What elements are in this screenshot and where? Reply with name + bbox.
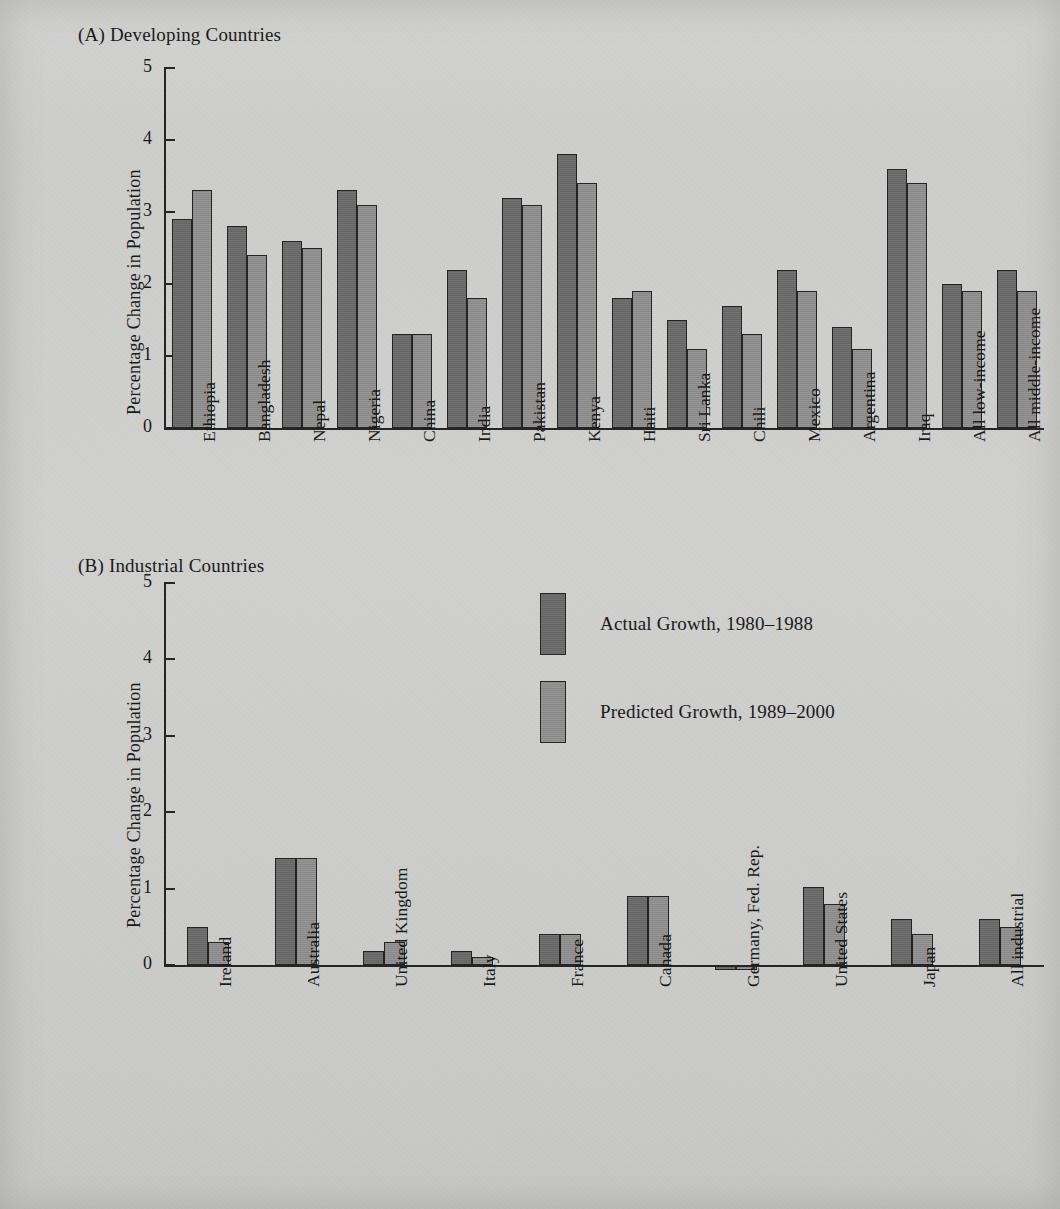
x-axis-line bbox=[164, 965, 1044, 967]
y-axis-line bbox=[164, 583, 166, 967]
bar-actual bbox=[392, 334, 412, 428]
bar-actual bbox=[612, 298, 632, 428]
x-axis-category-label: Japan bbox=[919, 947, 940, 987]
legend-swatch-actual-icon bbox=[540, 593, 566, 655]
y-axis-tick-label: 1 bbox=[126, 877, 152, 898]
y-axis-tick-label: 0 bbox=[126, 416, 152, 437]
bar-actual bbox=[451, 951, 472, 965]
x-axis-category-label: United Kingdom bbox=[391, 867, 412, 987]
x-axis-category-label: Ireland bbox=[215, 937, 236, 987]
legend-row-predicted: Predicted Growth, 1989–2000 bbox=[540, 681, 835, 743]
bar-actual bbox=[832, 327, 852, 428]
x-axis-category-label: Chili bbox=[749, 406, 770, 442]
x-axis-category-label: All middle-income bbox=[1024, 308, 1045, 442]
y-axis-tick-label: 0 bbox=[126, 953, 152, 974]
x-axis-category-label: Germany, Fed. Rep. bbox=[743, 845, 764, 987]
bar-predicted bbox=[907, 183, 927, 428]
bar-actual bbox=[777, 270, 797, 428]
bar-actual bbox=[715, 966, 736, 970]
legend-label-predicted: Predicted Growth, 1989–2000 bbox=[600, 701, 835, 723]
x-axis-category-label: Australia bbox=[303, 922, 324, 987]
x-axis-category-label: All industrial bbox=[1007, 893, 1028, 987]
legend-label-actual: Actual Growth, 1980–1988 bbox=[600, 613, 813, 635]
y-axis-tick-label: 5 bbox=[126, 571, 152, 592]
x-axis-category-label: Sri Lanka bbox=[694, 373, 715, 442]
panel-a-plot-area: 012345EthiopiaBangladeshNepalNigeriaChin… bbox=[164, 68, 1044, 428]
y-axis-tick-label: 3 bbox=[126, 200, 152, 221]
y-axis-tick-label: 4 bbox=[126, 647, 152, 668]
panel-b-industrial-countries: (B) Industrial Countries Percentage Chan… bbox=[0, 545, 1060, 1209]
y-axis-tick bbox=[164, 211, 175, 213]
bar-actual bbox=[447, 270, 467, 428]
x-axis-category-label: Iraq bbox=[914, 413, 935, 442]
y-axis-tick-label: 1 bbox=[126, 344, 152, 365]
y-axis-tick bbox=[164, 658, 175, 660]
y-axis-tick bbox=[164, 735, 175, 737]
y-axis-tick bbox=[164, 67, 175, 69]
x-axis-category-label: United States bbox=[831, 892, 852, 987]
bar-actual bbox=[337, 190, 357, 428]
panel-a-developing-countries: (A) Developing Countries Percentage Chan… bbox=[0, 0, 1060, 545]
x-axis-category-label: China bbox=[419, 400, 440, 442]
bar-actual bbox=[887, 169, 907, 428]
y-axis-tick bbox=[164, 888, 175, 890]
y-axis-tick-label: 4 bbox=[126, 128, 152, 149]
x-axis-category-label: France bbox=[567, 939, 588, 987]
x-axis-category-label: Argentina bbox=[859, 371, 880, 442]
panel-b-title: (B) Industrial Countries bbox=[78, 555, 264, 577]
bar-actual bbox=[502, 198, 522, 428]
x-axis-category-label: Canada bbox=[655, 934, 676, 987]
bar-actual bbox=[722, 306, 742, 428]
y-axis-tick-label: 5 bbox=[126, 56, 152, 77]
y-axis-tick bbox=[164, 964, 175, 966]
bar-actual bbox=[227, 226, 247, 428]
x-axis-category-label: Pakistan bbox=[529, 382, 550, 442]
bar-actual bbox=[275, 858, 296, 965]
x-axis-category-label: India bbox=[474, 406, 495, 442]
y-axis-tick bbox=[164, 811, 175, 813]
bar-actual bbox=[557, 154, 577, 428]
x-axis-category-label: Bangladesh bbox=[254, 359, 275, 442]
y-axis-line bbox=[164, 68, 166, 430]
y-axis-tick-label: 2 bbox=[126, 272, 152, 293]
bar-actual bbox=[363, 951, 384, 965]
figure-page: (A) Developing Countries Percentage Chan… bbox=[0, 0, 1060, 1209]
x-axis-category-label: All low-income bbox=[969, 330, 990, 442]
bar-actual bbox=[282, 241, 302, 428]
panel-a-title: (A) Developing Countries bbox=[78, 24, 281, 46]
legend: Actual Growth, 1980–1988 Predicted Growt… bbox=[540, 593, 980, 753]
bar-actual bbox=[187, 927, 208, 965]
bar-actual bbox=[942, 284, 962, 428]
bar-actual bbox=[891, 919, 912, 965]
legend-row-actual: Actual Growth, 1980–1988 bbox=[540, 593, 813, 655]
bar-actual bbox=[979, 919, 1000, 965]
x-axis-category-label: Mexico bbox=[804, 388, 825, 442]
bar-actual bbox=[667, 320, 687, 428]
y-axis-tick bbox=[164, 139, 175, 141]
bar-actual bbox=[803, 887, 824, 965]
x-axis-category-label: Haiti bbox=[639, 407, 660, 443]
y-axis-tick-label: 2 bbox=[126, 800, 152, 821]
x-axis-category-label: Kenya bbox=[584, 396, 605, 442]
y-axis-tick-label: 3 bbox=[126, 724, 152, 745]
bar-predicted bbox=[577, 183, 597, 428]
bar-actual bbox=[172, 219, 192, 428]
x-axis-category-label: Ethiopia bbox=[199, 382, 220, 442]
legend-swatch-predicted-icon bbox=[540, 681, 566, 743]
x-axis-category-label: Nigeria bbox=[364, 389, 385, 442]
x-axis-category-label: Nepal bbox=[309, 400, 330, 442]
bar-actual bbox=[997, 270, 1017, 428]
bar-actual bbox=[627, 896, 648, 965]
y-axis-tick bbox=[164, 582, 175, 584]
x-axis-category-label: Italy bbox=[479, 954, 500, 987]
bar-actual bbox=[539, 934, 560, 965]
